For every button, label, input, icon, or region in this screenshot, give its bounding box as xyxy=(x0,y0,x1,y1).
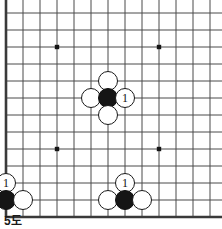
stone-move-number: 1 xyxy=(3,177,9,189)
stone-white[interactable] xyxy=(98,105,118,125)
figure-caption: 5도 xyxy=(4,211,22,228)
stone-move-number: 1 xyxy=(122,177,128,189)
go-diagram-figure: 111 5도 xyxy=(0,0,222,229)
go-stones-layer: 111 xyxy=(0,0,222,229)
stone-move-number: 1 xyxy=(122,92,128,104)
stone-white[interactable] xyxy=(13,190,33,210)
stone-white[interactable] xyxy=(132,190,152,210)
stone-white-move-1[interactable]: 1 xyxy=(115,88,135,108)
